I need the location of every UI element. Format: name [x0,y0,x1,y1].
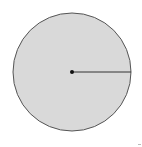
circle-diagram [0,0,142,147]
corner-mark [138,144,141,145]
center-point [70,70,74,74]
